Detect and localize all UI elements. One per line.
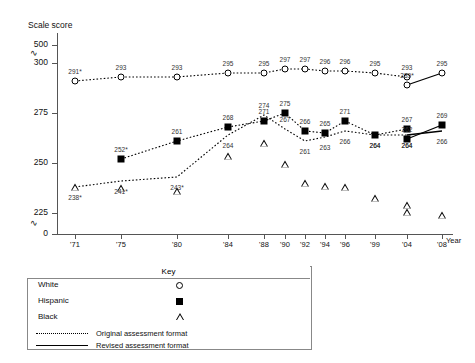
- y-axis-break-icon: ∿: [30, 218, 38, 228]
- y-tick-label: 275: [16, 107, 48, 117]
- data-label: 263: [320, 144, 331, 151]
- x-tick-label: '08: [437, 240, 447, 249]
- data-label: 274: [259, 102, 270, 109]
- data-label: 266: [437, 138, 448, 145]
- x-tick-mark: [305, 235, 306, 239]
- data-label: 267: [280, 116, 291, 123]
- data-label: 264: [370, 142, 381, 149]
- x-tick-label: '88: [259, 240, 269, 249]
- series-line-black-original: [75, 115, 407, 187]
- chart-root: Scale score Year 5003002752502250∿∿ '71'…: [0, 0, 475, 363]
- data-label: 264: [370, 142, 381, 149]
- data-label: 297: [280, 56, 291, 63]
- x-tick-label: '99: [370, 240, 380, 249]
- x-axis-line: [57, 234, 453, 235]
- data-point-white: [282, 66, 289, 73]
- data-label: 295: [437, 60, 448, 67]
- y-tick-mark: [52, 63, 57, 64]
- data-label: 267: [402, 116, 413, 123]
- x-tick-mark: [228, 235, 229, 239]
- data-label: 269: [437, 112, 448, 119]
- y-axis-line: [57, 33, 58, 235]
- data-label: 293: [116, 64, 127, 71]
- data-point-white: [404, 82, 411, 89]
- data-point-hispanic: [322, 130, 329, 137]
- y-tick-mark: [52, 163, 57, 164]
- data-label: 262: [402, 126, 413, 133]
- x-tick-mark: [375, 235, 376, 239]
- data-point-white: [261, 70, 268, 77]
- data-point-white: [225, 70, 232, 77]
- data-point-black: [173, 188, 181, 195]
- data-point-hispanic: [439, 122, 446, 129]
- data-point-white: [439, 70, 446, 77]
- x-tick-mark: [442, 235, 443, 239]
- data-label: 293: [402, 64, 413, 71]
- data-point-hispanic: [174, 138, 181, 145]
- x-tick-label: '71: [70, 240, 80, 249]
- series-line-hispanic-revised: [407, 125, 442, 139]
- data-label: 268: [223, 114, 234, 121]
- data-point-hispanic: [342, 118, 349, 125]
- x-tick-label: '96: [340, 240, 350, 249]
- data-label: 271: [259, 108, 270, 115]
- data-point-white: [118, 74, 125, 81]
- x-tick-mark: [75, 235, 76, 239]
- y-tick-label: 250: [16, 157, 48, 167]
- data-label: 296: [320, 58, 331, 65]
- triangle-open-icon: [176, 313, 184, 320]
- data-label: 295: [370, 60, 381, 67]
- y-tick-label: 225: [16, 207, 48, 217]
- data-point-white: [342, 68, 349, 75]
- data-label: 264: [402, 142, 413, 149]
- data-label: 264: [402, 142, 413, 149]
- data-point-hispanic: [282, 110, 289, 117]
- data-label: 295: [223, 60, 234, 67]
- x-tick-mark: [121, 235, 122, 239]
- data-label: 266: [340, 138, 351, 145]
- data-point-hispanic: [118, 156, 125, 163]
- data-point-white: [322, 68, 329, 75]
- legend-line-solid: [36, 345, 88, 346]
- data-point-white: [72, 78, 79, 85]
- data-label: 291*: [68, 68, 81, 75]
- y-tick-mark: [52, 113, 57, 114]
- y-tick-mark: [52, 213, 57, 214]
- x-tick-mark: [325, 235, 326, 239]
- data-label: 297: [300, 56, 311, 63]
- data-label: 264: [223, 142, 234, 149]
- series-line-white-revised: [407, 73, 442, 85]
- x-axis-title: Year: [446, 236, 461, 245]
- data-point-white: [404, 74, 411, 81]
- x-tick-label: '75: [116, 240, 126, 249]
- circle-open-icon: [176, 282, 183, 289]
- data-label: 261: [300, 148, 311, 155]
- data-point-hispanic: [404, 126, 411, 133]
- data-point-white: [372, 70, 379, 77]
- data-label: 266: [300, 118, 311, 125]
- x-tick-mark: [285, 235, 286, 239]
- data-point-black: [403, 209, 411, 216]
- data-label: 271: [340, 108, 351, 115]
- data-point-black: [321, 183, 329, 190]
- legend-format-original: Original assessment format: [96, 329, 187, 338]
- data-label: 293: [172, 64, 183, 71]
- data-label: 289*: [400, 72, 413, 79]
- x-tick-mark: [345, 235, 346, 239]
- x-tick-label: '84: [223, 240, 233, 249]
- data-label: 296: [340, 58, 351, 65]
- data-label: 241*: [114, 188, 127, 195]
- data-point-hispanic: [302, 128, 309, 135]
- data-point-black: [281, 161, 289, 168]
- data-point-black: [403, 202, 411, 209]
- y-tick-mark: [52, 234, 57, 235]
- legend-item-white: White: [38, 280, 58, 289]
- legend-title: Key: [27, 266, 310, 279]
- data-label: 275: [280, 100, 291, 107]
- x-tick-label: '92: [300, 240, 310, 249]
- y-axis-break-icon: ∿: [30, 48, 38, 58]
- legend-format-revised: Revised assessment format: [96, 341, 189, 350]
- data-label: 243*: [170, 184, 183, 191]
- data-point-black: [224, 153, 232, 160]
- data-point-hispanic: [225, 124, 232, 131]
